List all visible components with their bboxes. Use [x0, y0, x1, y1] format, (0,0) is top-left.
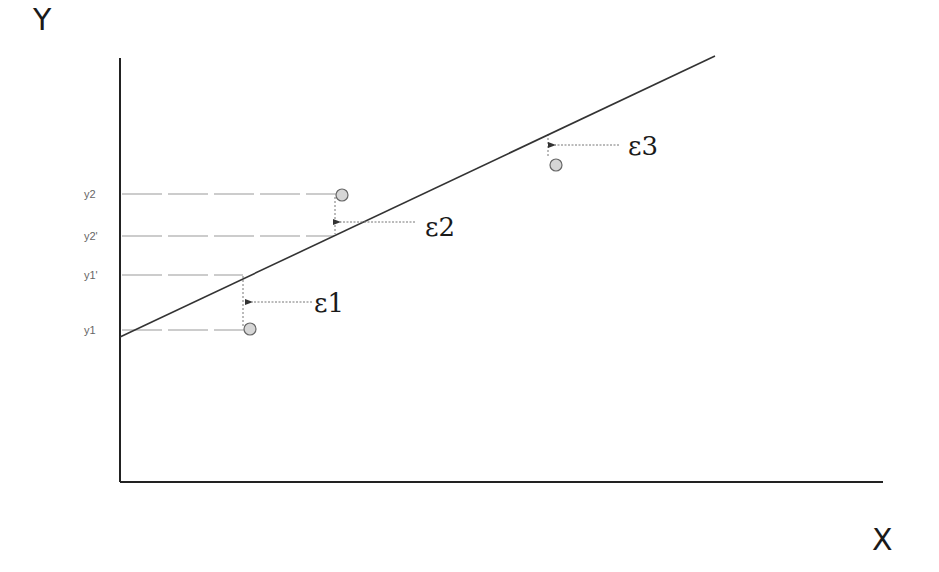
data-point-3 [550, 159, 562, 171]
residual-label-eps3: ε3 [628, 131, 658, 161]
x-axis-title: X [872, 522, 893, 557]
y-axis-title: Y [32, 2, 52, 37]
data-point-2 [336, 189, 348, 201]
y-tick-y2: y2 [84, 188, 96, 200]
residual-label-eps2: ε2 [425, 212, 455, 242]
data-point-1 [244, 323, 256, 335]
regression-diagram: Y X y2 y2' y1' y1 ε1 ε2 ε3 [0, 0, 939, 572]
y-tick-y1-prime: y1' [84, 269, 98, 281]
y-tick-y2-prime: y2' [84, 230, 98, 242]
regression-line [120, 56, 715, 337]
y-tick-y1: y1 [84, 324, 96, 336]
residual-label-eps1: ε1 [314, 288, 344, 318]
